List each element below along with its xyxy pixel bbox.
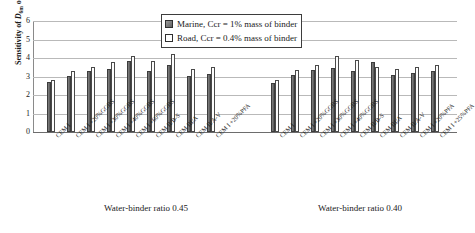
bar-road [295,70,299,132]
y-tick-label: 1 [16,110,30,118]
group-caption-0: Water-binder ratio 0.45 [66,203,226,214]
bar-group [41,22,61,132]
group-caption-1: Water-binder ratio 0.40 [280,203,440,214]
bar-road [71,71,75,132]
y-tick-label: 0 [16,128,30,136]
legend-label-marine: Marine, Ccr = 1% mass of binder [177,17,297,31]
y-axis-subscript: 6m [18,6,24,13]
bar-group [61,22,81,132]
legend-label-road: Road, Ccr = 0.4% mass of binder [177,31,297,45]
bar-road [275,80,279,132]
y-tick-label: 3 [16,73,30,81]
y-tick-label: 2 [16,91,30,99]
legend-swatch-road-icon [165,34,173,42]
x-tick-labels: CEM ICEM I +20%GGBSCEM I +30%GGBSCEM I +… [33,134,457,192]
y-tick-label: 6 [16,17,30,25]
legend-swatch-marine-icon [165,20,173,28]
y-tick-label: 4 [16,54,30,62]
legend-item-road: Road, Ccr = 0.4% mass of binder [165,31,297,45]
y-tick-label: 5 [16,36,30,44]
legend-item-marine: Marine, Ccr = 1% mass of binder [165,17,297,31]
legend: Marine, Ccr = 1% mass of binder Road, Cc… [161,14,302,48]
bar-road [51,80,55,132]
y-axis-title-or: or [14,0,23,6]
